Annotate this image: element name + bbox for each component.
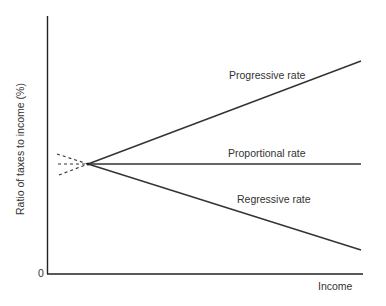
regressive-rate-line xyxy=(88,164,361,250)
origin-vertex xyxy=(86,162,89,165)
proportional-rate-label: Proportional rate xyxy=(228,147,306,159)
progressive-extrapolation xyxy=(57,154,88,164)
progressive-rate-label: Progressive rate xyxy=(229,69,306,81)
y-axis-label: Ratio of taxes to income (%) xyxy=(14,83,26,215)
tax-rate-chart: 0 Ratio of taxes to income (%) Income Pr… xyxy=(0,0,386,306)
origin-label: 0 xyxy=(38,267,44,279)
x-axis-label: Income xyxy=(318,280,353,292)
regressive-rate-label: Regressive rate xyxy=(237,193,311,205)
progressive-rate-line xyxy=(88,61,361,164)
regressive-extrapolation xyxy=(59,164,88,175)
